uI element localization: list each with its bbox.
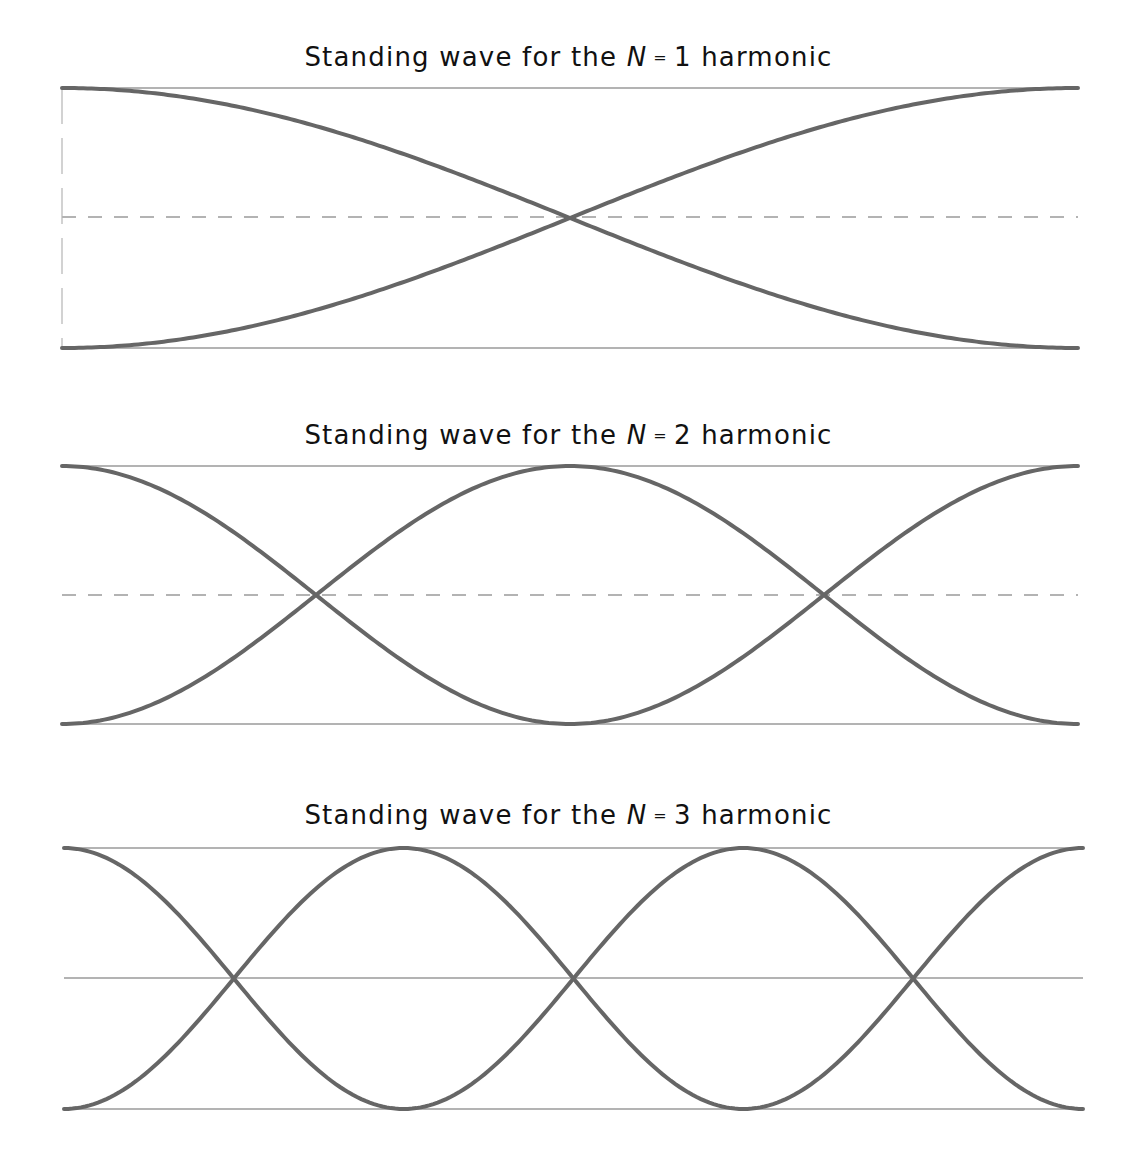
panel-2-title: Standing wave for the N=2 harmonic bbox=[0, 420, 1137, 450]
title-variable: N bbox=[627, 800, 648, 830]
title-variable: N bbox=[627, 420, 648, 450]
title-harmonic: 2 harmonic bbox=[674, 420, 833, 450]
panel-2-graphics bbox=[62, 466, 1078, 724]
wave-envelope-lower-start bbox=[62, 88, 1078, 348]
panel-3-title: Standing wave for the N=3 harmonic bbox=[0, 800, 1137, 830]
title-variable: N bbox=[627, 42, 648, 72]
title-harmonic: 1 harmonic bbox=[674, 42, 833, 72]
wave-canvas bbox=[0, 0, 1137, 1155]
title-text: Standing wave for the bbox=[304, 42, 617, 72]
title-text: Standing wave for the bbox=[304, 420, 617, 450]
panel-1-graphics bbox=[62, 88, 1078, 348]
title-equals: = bbox=[653, 426, 668, 445]
title-text: Standing wave for the bbox=[304, 800, 617, 830]
panel-1-title: Standing wave for the N=1 harmonic bbox=[0, 42, 1137, 72]
title-equals: = bbox=[653, 48, 668, 67]
title-harmonic: 3 harmonic bbox=[674, 800, 833, 830]
title-equals: = bbox=[653, 806, 668, 825]
panel-3-graphics bbox=[64, 848, 1083, 1109]
